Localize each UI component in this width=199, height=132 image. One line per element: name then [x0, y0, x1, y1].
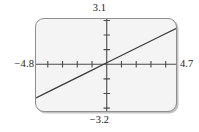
graph-figure: 3.1 −4.8 4.7 −3.2 [0, 0, 199, 132]
y-min-label: −3.2 [0, 114, 199, 125]
line-series [36, 28, 176, 97]
x-min-label: −4.8 [1, 58, 34, 69]
calculator-screen [35, 18, 177, 112]
y-max-label: 3.1 [0, 2, 199, 13]
x-max-label: 4.7 [180, 58, 199, 69]
plot-canvas [36, 19, 176, 111]
